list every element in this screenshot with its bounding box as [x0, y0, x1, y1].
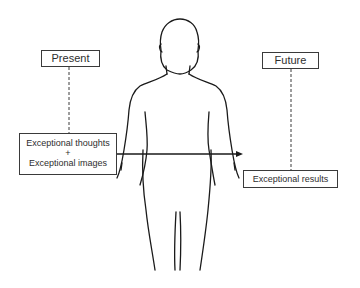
present-label: Present — [52, 52, 90, 64]
present-label-box: Present — [41, 50, 100, 67]
exceptional-results-text: Exceptional results — [253, 174, 329, 184]
present-content-box: Exceptional thoughts + Exceptional image… — [19, 133, 117, 175]
future-label-box: Future — [262, 52, 319, 69]
arrow-head-icon — [236, 151, 243, 157]
plus-sign: + — [20, 149, 116, 157]
future-content-box: Exceptional results — [243, 170, 338, 188]
exceptional-images-text: Exceptional images — [20, 157, 116, 169]
future-label: Future — [275, 54, 307, 66]
